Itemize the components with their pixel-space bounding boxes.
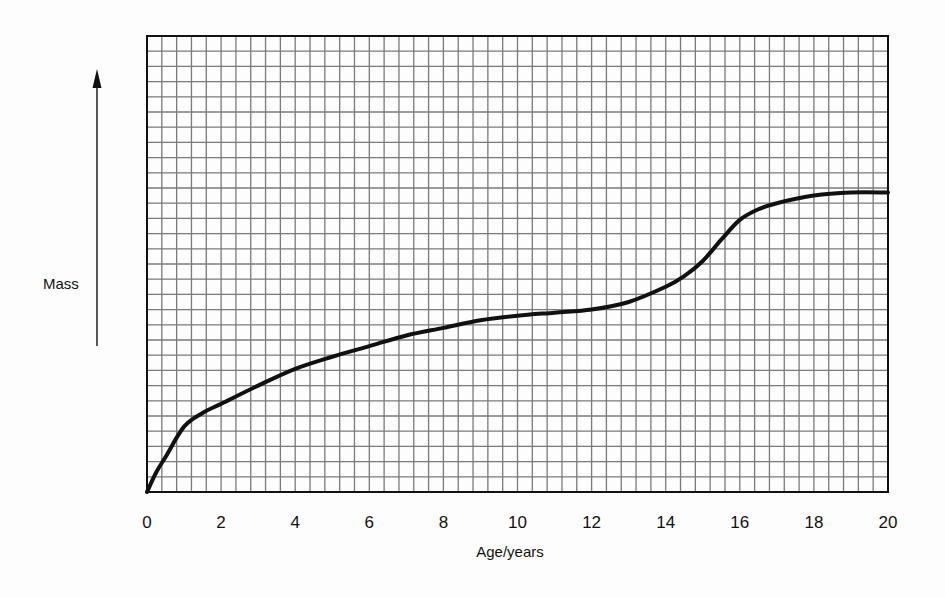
x-tick-label: 12 <box>582 513 601 532</box>
x-axis-tick-labels: 02468101214161820 <box>142 513 897 532</box>
x-tick-label: 16 <box>730 513 749 532</box>
x-tick-label: 0 <box>142 513 151 532</box>
x-tick-label: 2 <box>216 513 225 532</box>
x-tick-label: 20 <box>879 513 898 532</box>
x-tick-label: 8 <box>439 513 448 532</box>
x-tick-label: 6 <box>365 513 374 532</box>
chart-grid <box>147 36 888 492</box>
x-tick-label: 10 <box>508 513 527 532</box>
arrow-up-icon <box>93 69 102 88</box>
x-tick-label: 18 <box>804 513 823 532</box>
x-tick-label: 4 <box>290 513 299 532</box>
growth-chart: 02468101214161820 Mass Age/years <box>0 0 945 597</box>
y-axis-arrow <box>93 69 102 346</box>
y-axis-label: Mass <box>43 275 79 292</box>
x-axis-label: Age/years <box>476 543 544 560</box>
x-tick-label: 14 <box>656 513 675 532</box>
